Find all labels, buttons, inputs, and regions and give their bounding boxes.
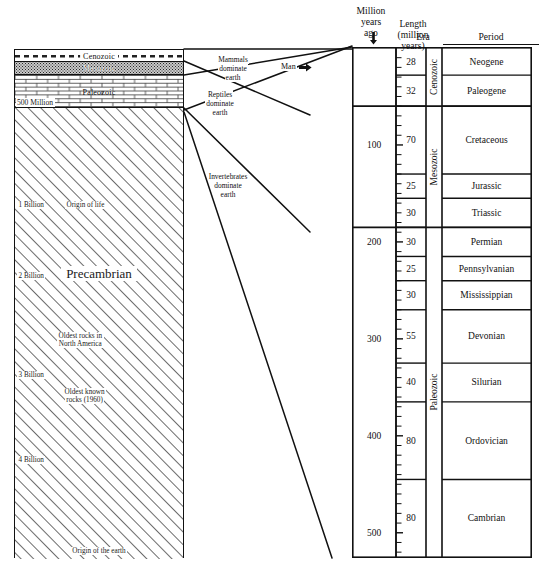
cell-length-ordovician: 80 [396, 436, 426, 446]
column-band-cenozoic-label: Cenozoic [80, 51, 118, 60]
cell-period-pennsylvanian: Pennsylvanian [442, 264, 531, 274]
annotation-man: Man [280, 62, 332, 72]
cell-length-permian: 30 [396, 237, 426, 247]
table-header-period: Period [443, 32, 539, 45]
note-1-billion: 1 Billion [17, 201, 45, 209]
cell-length-silurian: 40 [396, 377, 426, 387]
cell-period-triassic: Triassic [442, 208, 531, 218]
cell-period-devonian: Devonian [442, 331, 531, 341]
label-500-million: 500 Million [16, 98, 55, 107]
right-arrow-icon [299, 63, 312, 72]
annotation-mammals-dominate-earth: Mammals dominate earth [198, 55, 268, 82]
column-band-mesozoic: Mesozoic [15, 62, 183, 75]
down-arrow-icon [369, 32, 378, 45]
era-label-mesozoic: Mesozoic [429, 148, 439, 185]
cell-period-ordovician: Ordovician [442, 436, 531, 446]
precambrian-title-text: Precambrian [61, 266, 137, 281]
annotation-man-label: Man [280, 62, 297, 71]
note-origin-of-the-earth: Origin of the earth [15, 547, 183, 555]
cell-period-permian: Permian [442, 237, 531, 247]
column-band-mesozoic-label: Mesozoic [15, 64, 183, 73]
cell-length-cretaceous: 70 [396, 135, 426, 145]
note-4-billion: 4 Billion [17, 456, 45, 464]
era-label-paleozoic: Paleozoic [429, 374, 439, 411]
note-oldest-rocks-north-america: Oldest rocks in North America [57, 332, 104, 349]
cell-length-triassic: 30 [396, 208, 426, 218]
cell-length-neogene: 28 [396, 57, 426, 67]
cell-length-mississippian: 30 [396, 290, 426, 300]
cell-length-paleogene: 32 [396, 86, 426, 96]
column-band-paleozoic: Paleozoic 500 Million [15, 75, 183, 108]
annotation-reptiles-dominate-earth: Reptiles dominate earth [188, 90, 252, 117]
cell-length-jurassic: 25 [396, 181, 426, 191]
note-2-billion: 2 Billion [17, 272, 45, 280]
cell-period-cretaceous: Cretaceous [442, 135, 531, 145]
cell-length-cambrian: 80 [396, 513, 426, 523]
geologic-time-table: 28Neogene32Paleogene70Cretaceous25Jurass… [352, 47, 532, 558]
axis-label-500: 500 [354, 528, 394, 538]
cell-length-devonian: 55 [396, 331, 426, 341]
cell-period-jurassic: Jurassic [442, 181, 531, 191]
era-label-cenozoic: Cenozoic [429, 59, 439, 95]
geologic-column-diagram: Cenozoic Mesozoic Paleozoic 500 Million [14, 49, 184, 558]
axis-label-100: 100 [354, 140, 394, 150]
cell-period-cambrian: Cambrian [442, 513, 531, 523]
column-band-precambrian: Precambrian 1 Billion Origin of life 2 B… [15, 108, 183, 559]
column-band-cenozoic: Cenozoic [15, 50, 183, 62]
table-grid-lines [352, 47, 532, 558]
note-origin-of-life: Origin of life [65, 201, 106, 209]
annotation-layer: Mammals dominate earth Reptiles dominate… [184, 40, 354, 570]
cell-period-silurian: Silurian [442, 377, 531, 387]
annotation-invertebrates-dominate-earth: Invertebrates dominate earth [192, 172, 264, 199]
table-header-era: Era [406, 32, 440, 43]
cell-period-neogene: Neogene [442, 57, 531, 67]
cell-length-pennsylvanian: 25 [396, 264, 426, 274]
axis-label-300: 300 [354, 334, 394, 344]
cell-period-mississippian: Mississippian [442, 290, 531, 300]
axis-label-200: 200 [354, 237, 394, 247]
note-oldest-known-rocks: Oldest known rocks (1960) [63, 388, 106, 405]
column-band-paleozoic-label: Paleozoic [15, 87, 183, 96]
axis-label-400: 400 [354, 431, 394, 441]
figure-canvas: Cenozoic Mesozoic Paleozoic 500 Million [0, 0, 542, 573]
cell-period-paleogene: Paleogene [442, 86, 531, 96]
note-3-billion: 3 Billion [17, 371, 45, 379]
